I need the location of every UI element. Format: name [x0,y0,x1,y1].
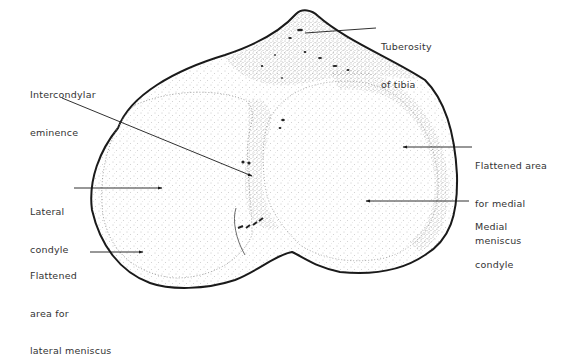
label-line: of tibia [381,79,432,92]
label-intercondylar-eminence: Intercondylar eminence [30,64,96,164]
label-line: lateral meniscus [30,345,112,358]
label-line: condyle [475,259,514,272]
label-line: Flattened [30,270,112,283]
label-flattened-area-lateral-meniscus: Flattened area for lateral meniscus [30,245,112,358]
label-line: Intercondylar [30,89,96,102]
label-line: area for [30,308,112,321]
label-line: Tuberosity [381,41,432,54]
label-medial-condyle: Medial condyle [475,196,514,296]
label-tuberosity-of-tibia: Tuberosity of tibia [381,16,432,116]
label-line: eminence [30,127,96,140]
label-line: Lateral [30,206,69,219]
label-line: Flattened area [475,160,547,173]
label-line: Medial [475,221,514,234]
